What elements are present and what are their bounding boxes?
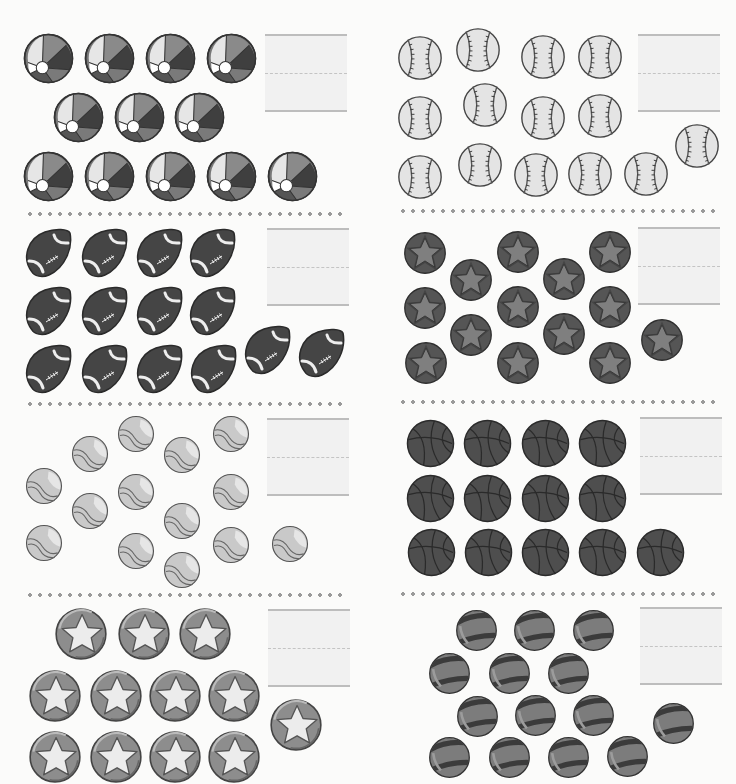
tennis-ball-icon	[163, 502, 201, 540]
dark-star-ball-icon	[588, 285, 632, 329]
basketball-icon	[636, 528, 685, 577]
answer-box-striped-balls[interactable]	[640, 607, 722, 685]
tennis-ball-icon	[212, 473, 250, 511]
answer-box-beach-balls[interactable]	[265, 34, 347, 112]
light-star-ball-icon	[89, 669, 143, 723]
light-star-ball-icon	[269, 698, 323, 752]
striped-ball-icon	[456, 695, 499, 738]
dark-star-ball-icon	[588, 341, 632, 385]
dark-star-ball-icon	[496, 230, 540, 274]
tennis-ball-icon	[212, 415, 250, 453]
striped-ball-icon	[572, 694, 615, 737]
football-icon	[79, 228, 129, 278]
beach-ball-icon	[145, 33, 196, 84]
dark-star-ball-icon	[449, 313, 493, 357]
dark-star-ball-icon	[404, 341, 448, 385]
tennis-ball-icon	[163, 551, 201, 589]
answer-value	[268, 611, 350, 685]
striped-ball-icon	[514, 694, 557, 737]
light-star-ball-icon	[207, 669, 261, 723]
light-star-ball-icon	[89, 730, 143, 784]
football-icon	[23, 344, 73, 394]
light-star-ball-icon	[178, 607, 232, 661]
light-star-ball-icon	[117, 607, 171, 661]
basketball-icon	[578, 528, 627, 577]
basketball-icon	[521, 419, 570, 468]
dotted-separator	[25, 402, 345, 406]
basketball-icon	[578, 419, 627, 468]
answer-box-baseballs[interactable]	[638, 34, 720, 112]
beach-ball-icon	[267, 151, 318, 202]
answer-box-footballs[interactable]	[267, 228, 349, 306]
beach-ball-icon	[206, 151, 257, 202]
baseball-icon	[577, 34, 623, 80]
answer-box-tennis-balls[interactable]	[267, 418, 349, 496]
basketball-icon	[578, 474, 627, 523]
dotted-separator	[398, 209, 720, 213]
tennis-ball-icon	[25, 524, 63, 562]
light-star-ball-icon	[148, 669, 202, 723]
beach-ball-icon	[84, 151, 135, 202]
dark-star-ball-icon	[496, 341, 540, 385]
football-icon	[296, 328, 346, 378]
striped-ball-icon	[428, 652, 471, 695]
baseball-icon	[577, 93, 623, 139]
answer-value	[267, 420, 349, 494]
football-icon	[188, 344, 238, 394]
light-star-ball-icon	[148, 730, 202, 784]
beach-ball-icon	[174, 92, 225, 143]
answer-box-basketballs[interactable]	[640, 417, 722, 495]
dark-star-ball-icon	[403, 286, 447, 330]
football-icon	[187, 286, 237, 336]
basketball-icon	[464, 528, 513, 577]
beach-ball-icon	[145, 151, 196, 202]
striped-ball-icon	[547, 652, 590, 695]
answer-value	[640, 419, 722, 493]
striped-ball-icon	[652, 702, 695, 745]
dark-star-ball-icon	[542, 257, 586, 301]
football-icon	[23, 286, 73, 336]
baseball-icon	[457, 142, 503, 188]
beach-ball-icon	[114, 92, 165, 143]
beach-ball-icon	[23, 151, 74, 202]
striped-ball-icon	[455, 609, 498, 652]
dotted-separator	[25, 212, 345, 216]
tennis-ball-icon	[271, 525, 309, 563]
tennis-ball-icon	[117, 473, 155, 511]
tennis-ball-icon	[163, 436, 201, 474]
football-icon	[23, 228, 73, 278]
light-star-ball-icon	[28, 669, 82, 723]
basketball-icon	[463, 474, 512, 523]
baseball-icon	[397, 154, 443, 200]
dark-star-ball-icon	[542, 312, 586, 356]
baseball-icon	[520, 34, 566, 80]
baseball-icon	[567, 151, 613, 197]
football-icon	[134, 228, 184, 278]
beach-ball-icon	[84, 33, 135, 84]
football-icon	[134, 286, 184, 336]
answer-value	[640, 609, 722, 683]
football-icon	[242, 325, 292, 375]
light-star-ball-icon	[207, 730, 261, 784]
answer-box-dark-star-balls[interactable]	[638, 227, 720, 305]
tennis-ball-icon	[117, 532, 155, 570]
baseball-icon	[397, 95, 443, 141]
striped-ball-icon	[606, 735, 649, 778]
light-star-ball-icon	[28, 730, 82, 784]
dark-star-ball-icon	[640, 318, 684, 362]
basketball-icon	[406, 474, 455, 523]
baseball-icon	[397, 35, 443, 81]
baseball-icon	[513, 152, 559, 198]
answer-value	[265, 36, 347, 110]
basketball-icon	[521, 528, 570, 577]
dark-star-ball-icon	[403, 231, 447, 275]
dark-star-ball-icon	[588, 230, 632, 274]
tennis-ball-icon	[71, 435, 109, 473]
basketball-icon	[407, 528, 456, 577]
light-star-ball-icon	[54, 607, 108, 661]
answer-box-light-star-balls[interactable]	[268, 609, 350, 687]
answer-value	[267, 230, 349, 304]
baseball-icon	[623, 151, 669, 197]
baseball-icon	[520, 95, 566, 141]
